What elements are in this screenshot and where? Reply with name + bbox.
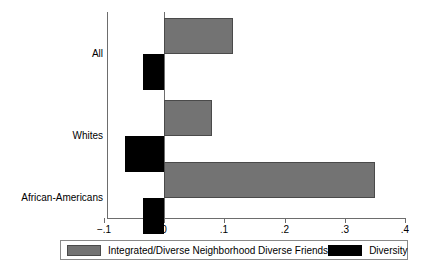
x-axis-tick-label: .4 (385, 224, 423, 235)
bar-integrated-african-americans (164, 162, 375, 198)
x-axis-tick (405, 218, 406, 223)
bar-chart: All Whites African-Americans −.10.1.2.3.… (0, 0, 423, 267)
legend-swatch-integrated-icon (67, 245, 101, 256)
legend-item-integrated: Integrated/Diverse Neighborhood Diverse … (67, 245, 328, 256)
legend-label-diversity: Diversity (369, 245, 407, 256)
x-axis-tick-label: −.1 (84, 224, 124, 235)
x-axis-tick-label: .1 (204, 224, 244, 235)
bar-diversity-african-americans (143, 198, 164, 234)
x-axis-tick-label: .2 (265, 224, 305, 235)
bar-diversity-all (143, 54, 164, 90)
x-axis-tick (224, 218, 225, 223)
bar-integrated-all (164, 18, 233, 54)
bar-diversity-whites (125, 136, 164, 172)
x-axis-tick (164, 218, 165, 223)
x-axis-tick-label: .3 (325, 224, 365, 235)
bar-integrated-whites (164, 100, 212, 136)
legend-item-diversity: Diversity (328, 245, 407, 256)
x-axis-tick (345, 218, 346, 223)
bars-layer (0, 0, 423, 218)
x-axis-tick (285, 218, 286, 223)
chart-legend: Integrated/Diverse Neighborhood Diverse … (60, 240, 408, 260)
x-axis-tick (104, 218, 105, 223)
legend-label-integrated: Integrated/Diverse Neighborhood Diverse … (108, 245, 328, 256)
legend-swatch-diversity-icon (328, 245, 362, 256)
